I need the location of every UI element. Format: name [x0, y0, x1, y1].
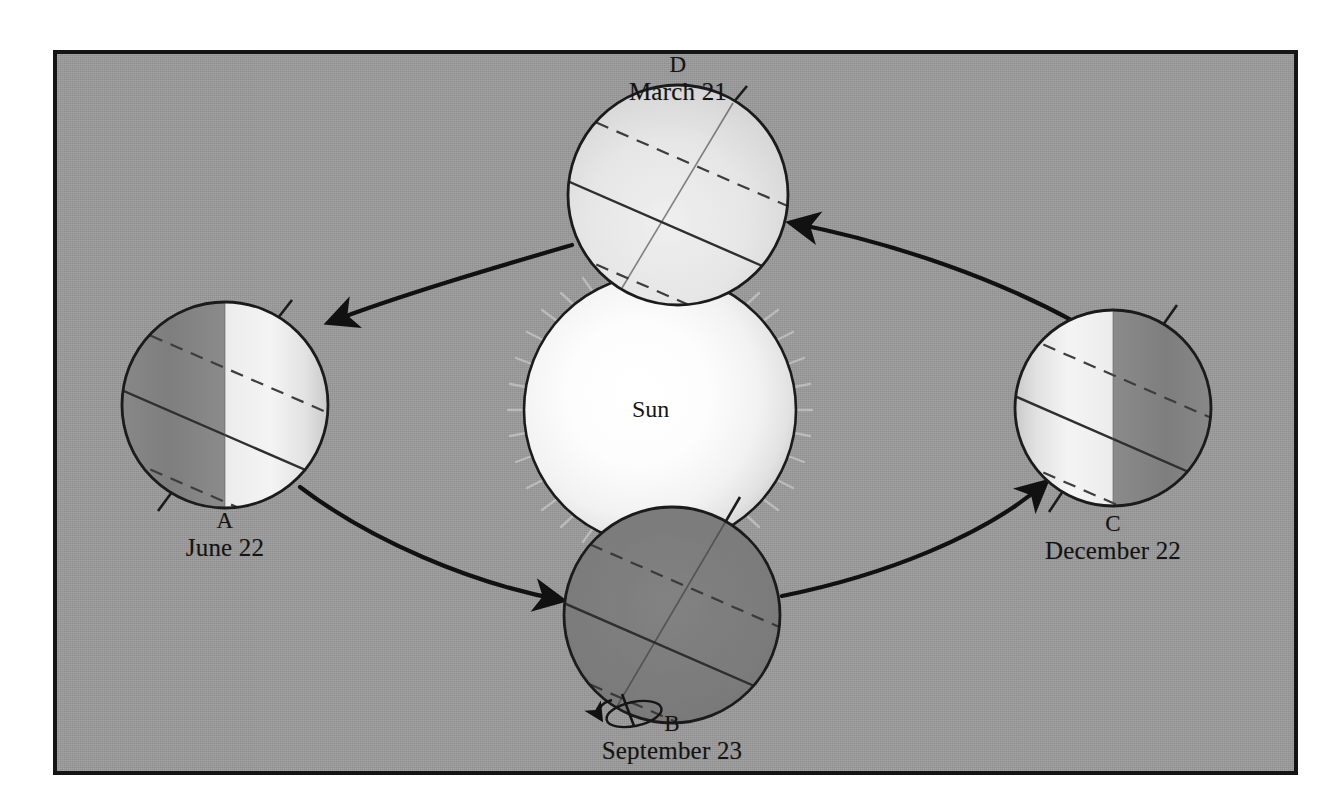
label-d-date: March 21	[578, 78, 778, 106]
diagram-svg	[0, 0, 1342, 812]
label-a-date: June 22	[125, 534, 325, 562]
label-b-id: B	[572, 711, 772, 737]
label-position-b: B September 23	[572, 711, 772, 765]
earth-c-axis-north	[1163, 305, 1177, 325]
label-a-id: A	[125, 508, 325, 534]
earth-c-day-half	[1015, 308, 1113, 508]
earth-c-night-half	[1113, 308, 1211, 508]
earth-a-axis-north	[278, 300, 292, 318]
label-position-c: C December 22	[1013, 511, 1213, 565]
orbit-segment-d-to-a	[330, 245, 572, 322]
label-d-id: D	[578, 52, 778, 78]
orbit-segment-a-to-b	[300, 487, 561, 600]
label-position-d: D March 21	[578, 52, 778, 106]
label-position-a: A June 22	[125, 508, 325, 562]
sun-label: Sun	[632, 396, 669, 423]
orbit-segment-b-to-c	[782, 483, 1045, 596]
label-b-date: September 23	[572, 737, 772, 765]
earth-a-night-half	[122, 302, 225, 508]
orbit-segment-c-to-d	[792, 223, 1075, 322]
label-c-date: December 22	[1013, 537, 1213, 565]
label-c-id: C	[1013, 511, 1213, 537]
earth-c-axis-south	[1049, 491, 1063, 512]
figure-canvas: Sun D March 21 A June 22 B September 23 …	[0, 0, 1342, 812]
